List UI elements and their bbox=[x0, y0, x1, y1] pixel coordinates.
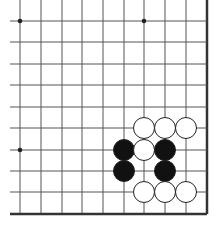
white-stone bbox=[134, 118, 155, 139]
star-point bbox=[18, 19, 23, 24]
white-stone bbox=[155, 118, 176, 139]
white-stone bbox=[176, 118, 197, 139]
star-point bbox=[18, 148, 23, 153]
white-stone bbox=[134, 140, 155, 161]
white-stone bbox=[155, 182, 176, 203]
black-stone bbox=[155, 140, 176, 161]
black-stone bbox=[155, 161, 176, 182]
white-stone bbox=[176, 182, 197, 203]
star-point bbox=[142, 19, 147, 24]
black-stone bbox=[114, 161, 135, 182]
white-stone bbox=[134, 182, 155, 203]
black-stone bbox=[114, 140, 135, 161]
go-board bbox=[0, 0, 216, 227]
